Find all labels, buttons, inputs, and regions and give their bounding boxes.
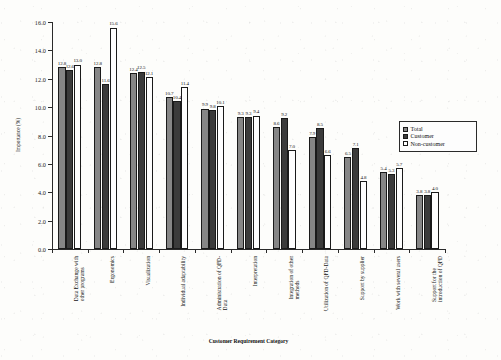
bar-value-label: 5.7 — [396, 162, 402, 167]
y-axis-line — [52, 22, 53, 249]
bar-value-label: 12.8 — [94, 61, 102, 66]
x-tick-mark — [266, 249, 267, 253]
bar-customer — [66, 70, 73, 249]
bar-noncustomer — [110, 28, 117, 249]
bar-value-label: 7.0 — [289, 144, 295, 149]
category-label: Administration of QFD-Data — [216, 256, 229, 310]
bar-group: 9.39.39.4 — [237, 22, 260, 249]
bar-total — [344, 157, 351, 249]
legend-label: Non-customer — [411, 141, 445, 147]
category-label: Support for theintroduction of QFD — [431, 256, 444, 302]
bar-value-label: 7.1 — [353, 142, 359, 147]
x-tick-mark — [159, 249, 160, 253]
x-tick-mark — [52, 249, 53, 253]
bar-customer — [352, 148, 359, 249]
bar-customer — [173, 101, 180, 249]
bar-noncustomer — [181, 87, 188, 249]
bar-total — [309, 137, 316, 249]
bar-value-label: 9.3 — [238, 111, 244, 116]
bar-noncustomer — [431, 192, 438, 249]
legend-label: Total — [411, 126, 423, 132]
plot-area: 0.02.04.06.08.010.012.014.016.0 12.812.6… — [52, 22, 445, 249]
bar-value-label: 6.5 — [345, 151, 351, 156]
x-tick-mark — [195, 249, 196, 253]
bar-value-label: 5.4 — [381, 166, 387, 171]
category-label: Individual adaptability — [180, 256, 186, 307]
bar-customer — [102, 84, 109, 249]
y-tick-label: 4.0 — [38, 189, 46, 196]
y-tick-label: 6.0 — [38, 160, 46, 167]
category-label: Interpretation — [252, 256, 258, 286]
category-label: Data Exchange withother programs — [73, 256, 86, 301]
bar-noncustomer — [146, 77, 153, 249]
bar-value-label: 12.6 — [66, 64, 74, 69]
bar-value-label: 3.8 — [416, 189, 422, 194]
bar-total — [237, 117, 244, 249]
bar-value-label: 15.6 — [109, 21, 117, 26]
bar-total — [201, 109, 208, 249]
y-tick-mark — [48, 79, 52, 80]
chart-page: Importance (%) 0.02.04.06.08.010.012.014… — [0, 0, 501, 360]
x-axis-line — [52, 249, 445, 250]
bar-group: 9.99.810.1 — [201, 22, 224, 249]
x-tick-mark — [88, 249, 89, 253]
bar-customer — [424, 195, 431, 249]
y-tick-label: 10.0 — [35, 104, 46, 111]
bar-customer — [388, 174, 395, 249]
x-tick-mark — [409, 249, 410, 253]
bar-value-label: 12.1 — [145, 71, 153, 76]
legend-item-total[interactable]: Total — [403, 126, 472, 132]
bar-group: 12.811.615.6 — [94, 22, 117, 249]
category-label: Visualization — [145, 256, 151, 286]
bar-group: 8.69.27.0 — [273, 22, 296, 249]
bar-noncustomer — [217, 106, 224, 249]
bar-value-label: 4.0 — [432, 186, 438, 191]
bar-value-label: 8.5 — [317, 122, 323, 127]
bar-value-label: 8.6 — [273, 121, 279, 126]
bar-value-label: 4.8 — [360, 175, 366, 180]
bar-total — [58, 67, 65, 249]
x-tick-mark — [231, 249, 232, 253]
bar-noncustomer — [324, 155, 331, 249]
y-tick-mark — [48, 164, 52, 165]
bar-value-label: 12.5 — [137, 65, 145, 70]
bar-value-label: 5.3 — [388, 168, 394, 173]
bar-customer — [316, 128, 323, 249]
bar-noncustomer — [360, 181, 367, 249]
bar-value-label: 10.4 — [173, 95, 181, 100]
legend-swatch-icon — [403, 134, 408, 139]
bar-noncustomer — [253, 116, 260, 249]
bar-group: 6.57.14.8 — [344, 22, 367, 249]
bar-customer — [138, 72, 145, 249]
bar-value-label: 9.3 — [246, 111, 252, 116]
y-tick-mark — [48, 136, 52, 137]
category-label: Integration of othermethods — [288, 256, 301, 300]
bar-customer — [245, 117, 252, 249]
legend-swatch-icon — [403, 141, 408, 146]
x-tick-mark — [445, 249, 446, 253]
category-label: Support by supplier — [359, 256, 365, 300]
bar-value-label: 13.0 — [73, 58, 81, 63]
legend-label: Customer — [411, 133, 434, 139]
bar-value-label: 9.9 — [202, 102, 208, 107]
legend-item-noncustomer[interactable]: Non-customer — [403, 141, 472, 147]
legend-item-customer[interactable]: Customer — [403, 133, 472, 139]
legend-swatch-icon — [403, 127, 408, 132]
x-tick-mark — [374, 249, 375, 253]
y-tick-mark — [48, 50, 52, 51]
y-tick-label: 12.0 — [35, 75, 46, 82]
bar-noncustomer — [74, 65, 81, 249]
y-tick-mark — [48, 107, 52, 108]
category-label: Work with several users — [395, 256, 401, 310]
bar-total — [416, 195, 423, 249]
category-label: Ergonomics — [109, 256, 115, 283]
bar-value-label: 9.8 — [210, 104, 216, 109]
chart-legend: TotalCustomerNon-customer — [399, 121, 477, 152]
y-axis-title: Importance (%) — [15, 118, 21, 152]
bar-value-label: 11.4 — [181, 81, 189, 86]
bar-value-label: 7.9 — [309, 131, 315, 136]
bar-noncustomer — [396, 168, 403, 249]
y-tick-mark — [48, 192, 52, 193]
bar-group: 7.98.56.6 — [309, 22, 332, 249]
bar-customer — [209, 110, 216, 249]
